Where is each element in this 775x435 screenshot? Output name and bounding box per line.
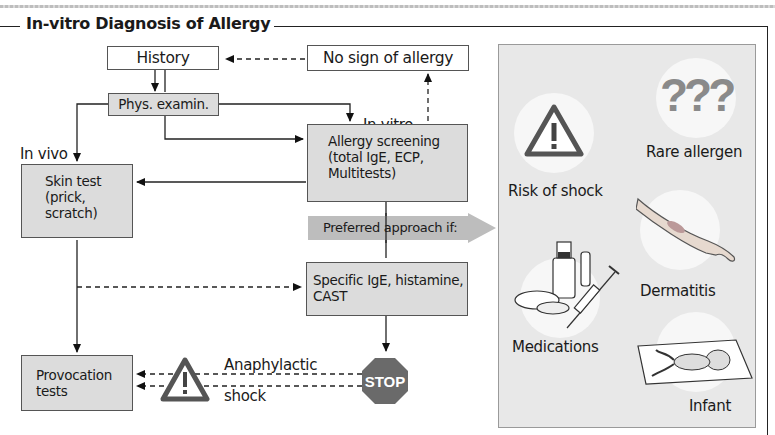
- specific-ige-line-1: Specific IgE, histamine,: [313, 272, 467, 288]
- skin-test-line-3: scratch): [45, 205, 132, 221]
- skin-test-box: Skin test (prick, scratch): [21, 164, 133, 238]
- specific-ige-box: Specific IgE, histamine, CAST: [306, 262, 468, 316]
- infant-label: Infant: [689, 397, 731, 415]
- question-marks-icon: ???: [660, 68, 732, 122]
- provocation-line-2: tests: [36, 383, 132, 399]
- rare-allergen-label: Rare allergen: [646, 143, 742, 161]
- phys-exam-box: Phys. examin.: [108, 93, 219, 116]
- provocation-tests-box: Provocation tests: [21, 355, 133, 411]
- arm-icon: [636, 195, 740, 271]
- provocation-line-1: Provocation: [36, 367, 132, 383]
- history-box: History: [107, 46, 219, 70]
- dermatitis-label: Dermatitis: [640, 282, 715, 300]
- anaphylactic-label: Anaphylactic: [224, 356, 317, 374]
- phys-exam-label: Phys. examin.: [118, 96, 208, 112]
- shock-label: shock: [224, 387, 266, 405]
- allergy-screening-box: Allergy screening (total IgE, ECP, Multi…: [307, 124, 468, 202]
- in-vivo-label: In vivo: [20, 145, 68, 163]
- warning-triangle-icon: [523, 103, 585, 159]
- specific-ige-line-2: CAST: [313, 288, 467, 304]
- screening-line-1: Allergy screening: [328, 133, 467, 149]
- no-sign-box: No sign of allergy: [307, 45, 469, 71]
- medications-label: Medications: [512, 338, 599, 356]
- history-label: History: [136, 49, 189, 67]
- infant-icon: [636, 338, 754, 388]
- no-sign-label: No sign of allergy: [323, 49, 453, 67]
- warning-triangle-icon: [160, 357, 210, 403]
- screening-line-3: Multitests): [328, 165, 467, 181]
- stop-sign-icon: STOP: [361, 357, 409, 405]
- medication-syringe-icon: [505, 236, 625, 336]
- skin-test-line-2: (prick,: [45, 189, 132, 205]
- risk-of-shock-label: Risk of shock: [508, 182, 603, 200]
- screening-line-2: (total IgE, ECP,: [328, 149, 467, 165]
- preferred-label: Preferred approach if:: [323, 220, 457, 235]
- svg-text:STOP: STOP: [365, 373, 406, 390]
- skin-test-line-1: Skin test: [45, 173, 132, 189]
